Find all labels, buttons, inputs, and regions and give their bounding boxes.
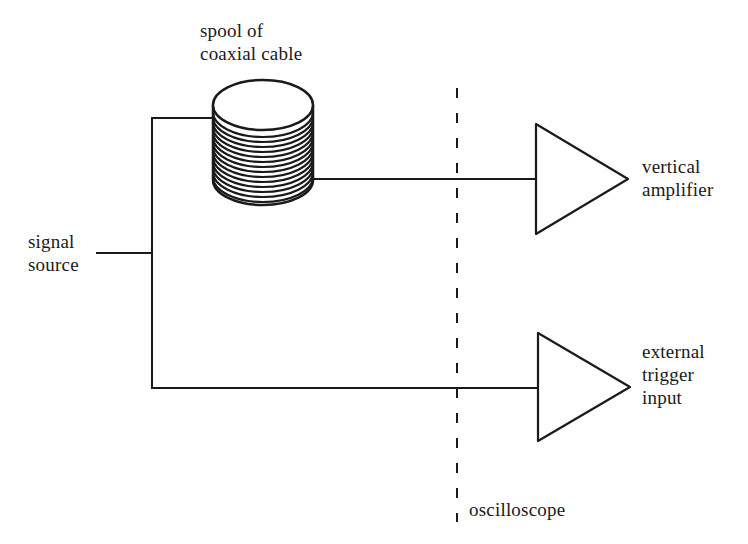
signal-source-label: signal source xyxy=(28,230,79,276)
oscilloscope-label: oscilloscope xyxy=(469,498,565,521)
vertical-amplifier-label: vertical amplifier xyxy=(642,155,713,201)
external-trigger-line-2: trigger xyxy=(642,363,705,386)
external-trigger-label: external trigger input xyxy=(642,340,705,409)
oscilloscope-label-text: oscilloscope xyxy=(469,498,565,521)
vertical-amplifier-line-1: vertical xyxy=(642,155,713,178)
vertical-amplifier-icon xyxy=(536,124,628,234)
spool-label-line-2: coaxial cable xyxy=(200,42,302,65)
cable-spool-icon xyxy=(213,80,313,205)
signal-source-line-1: signal xyxy=(28,230,79,253)
external-trigger-icon xyxy=(538,333,630,441)
external-trigger-line-1: external xyxy=(642,340,705,363)
spool-label-line-1: spool of xyxy=(200,19,302,42)
vertical-amplifier-line-2: amplifier xyxy=(642,178,713,201)
diagram-canvas xyxy=(0,0,748,544)
signal-source-line-2: source xyxy=(28,253,79,276)
external-trigger-line-3: input xyxy=(642,386,705,409)
spool-label: spool of coaxial cable xyxy=(200,19,302,65)
